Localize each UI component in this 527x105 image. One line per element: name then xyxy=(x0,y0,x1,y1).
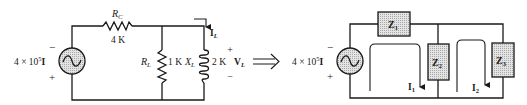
xl-inductor-icon xyxy=(200,50,209,83)
rc-resistor-icon xyxy=(103,22,132,30)
loop-current-i2-icon xyxy=(457,40,485,92)
source-label: 4 × 105I xyxy=(14,55,46,67)
rl-label: RL xyxy=(140,56,151,69)
circuit-diagram-svg: − + 4 × 105I RC 4 K RL 1 K XL 2 K IL + V… xyxy=(0,0,527,105)
source-plus-sign: + xyxy=(327,70,333,82)
loop-current-i1-icon xyxy=(370,44,420,91)
left-circuit: − + 4 × 105I RC 4 K RL 1 K XL 2 K IL + V… xyxy=(14,8,245,100)
il-label: IL xyxy=(210,28,218,39)
z2-impedance-box: Z2 xyxy=(428,44,449,80)
rl-resistor-icon xyxy=(158,50,166,83)
rl-value: 1 K xyxy=(168,57,182,67)
left-top-wire xyxy=(72,26,204,50)
z3-impedance-box: Z3 xyxy=(492,43,514,77)
xl-value: 2 K xyxy=(212,57,226,67)
vl-label: VL xyxy=(234,57,245,68)
rc-label: RC xyxy=(111,8,123,21)
implies-arrow-icon xyxy=(253,54,279,69)
ac-source-icon xyxy=(59,48,85,74)
right-circuit: − + 4 × 105I Z1 Z2 Z3 I1 I2 xyxy=(292,12,514,98)
rc-value: 4 K xyxy=(111,35,125,45)
left-bottom-wire xyxy=(72,74,204,100)
ac-source-icon xyxy=(337,48,363,74)
z1-impedance-box: Z1 xyxy=(378,12,410,36)
i2-label: I2 xyxy=(472,83,479,94)
source-label: 4 × 105I xyxy=(292,55,324,67)
source-minus-sign: − xyxy=(327,41,333,53)
circuit-figure: − + 4 × 105I RC 4 K RL 1 K XL 2 K IL + V… xyxy=(0,0,527,105)
vl-plus-sign: + xyxy=(227,44,233,55)
xl-label: XL xyxy=(184,56,195,69)
i1-label: I1 xyxy=(408,82,415,93)
source-minus-sign: − xyxy=(49,41,55,53)
right-bottom-wire xyxy=(350,74,503,98)
source-plus-sign: + xyxy=(49,71,55,83)
vl-minus-sign: − xyxy=(227,71,233,82)
